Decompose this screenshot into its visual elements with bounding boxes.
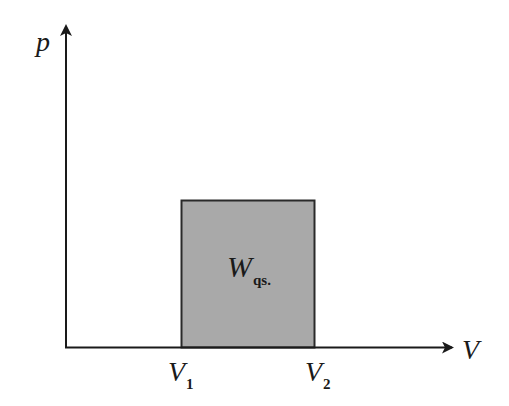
v1-subscript: 1 bbox=[186, 376, 194, 392]
v1-label: V1 bbox=[168, 358, 194, 386]
work-subscript: qs. bbox=[253, 272, 271, 288]
v1-symbol: V bbox=[168, 356, 185, 387]
work-symbol: W bbox=[227, 250, 252, 283]
pv-diagram bbox=[0, 0, 509, 406]
v2-symbol: V bbox=[305, 356, 322, 387]
work-label: Wqs. bbox=[227, 252, 271, 282]
p-axis-label: p bbox=[36, 28, 50, 56]
v2-label: V2 bbox=[305, 358, 331, 386]
v2-subscript: 2 bbox=[323, 376, 331, 392]
v-axis-label: V bbox=[462, 336, 479, 364]
